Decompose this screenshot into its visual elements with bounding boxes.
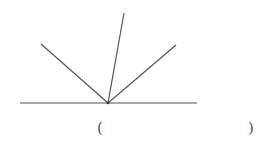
ray-left	[41, 44, 108, 103]
ray-top	[108, 13, 124, 103]
answer-close-paren: )	[248, 121, 254, 136]
angle-diagram	[0, 0, 268, 144]
ray-right	[108, 45, 176, 103]
vertex-point	[107, 102, 110, 105]
answer-open-paren: (	[97, 121, 103, 136]
